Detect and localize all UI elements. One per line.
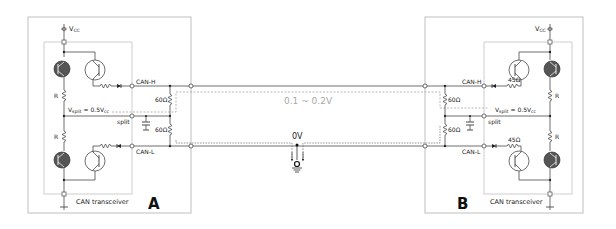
can-l-pin-b xyxy=(482,144,486,148)
transistor-icon xyxy=(54,152,70,168)
capacitor-icon xyxy=(142,116,150,130)
resistor-label-a-upper: R xyxy=(54,93,58,99)
vcc-icon xyxy=(547,24,553,44)
vcc-icon xyxy=(61,24,67,44)
ground-icon xyxy=(292,144,302,173)
termination-resistor-icon xyxy=(443,124,447,135)
split-label-a: split xyxy=(117,119,130,125)
can-l-pin-a xyxy=(130,144,134,148)
split-label-b: split xyxy=(488,119,501,125)
termination-resistor-icon xyxy=(168,94,172,105)
node-a xyxy=(28,17,193,213)
resistor-icon xyxy=(100,84,111,88)
diode-icon xyxy=(117,144,121,148)
capacitor-icon xyxy=(466,116,474,130)
series-resistor-label-b-high: 45Ω xyxy=(508,77,520,83)
can-l-label-a: CAN-L xyxy=(136,149,154,155)
transceiver-label-b: CAN transceiver xyxy=(490,199,543,206)
vsplit-label-b: Vsplit = 0.5Vcc xyxy=(495,107,536,115)
series-resistor-label-b-low: 45Ω xyxy=(508,137,520,143)
transistor-icon xyxy=(544,61,560,77)
resistor-icon xyxy=(62,131,66,142)
resistor-icon xyxy=(100,144,111,148)
diode-icon xyxy=(492,84,496,88)
vcc-label-a: VCC xyxy=(69,26,80,34)
can-h-label-b: CAN-H xyxy=(462,79,481,85)
transceiver-label-a: CAN transceiver xyxy=(76,199,129,206)
node-a-outer-box xyxy=(28,17,191,213)
split-pin-b xyxy=(482,114,486,118)
termination-label-a-lower: 60Ω xyxy=(155,127,167,133)
transistor-icon xyxy=(85,60,105,80)
can-bus-diagram: VCC R R Vsplit = 0.5Vcc CAN-H split CAN-… xyxy=(0,0,616,229)
split-pin-a xyxy=(130,114,134,118)
transistor-icon xyxy=(509,151,529,171)
resistor-icon xyxy=(507,144,518,148)
node-label-b: B xyxy=(457,197,468,212)
resistor-icon xyxy=(62,90,66,101)
can-h-label-a: CAN-H xyxy=(136,79,155,85)
resistor-label-a-lower: R xyxy=(54,134,58,140)
diode-icon xyxy=(117,84,121,88)
diode-icon xyxy=(492,144,496,148)
resistor-label-b-lower: R xyxy=(555,134,559,140)
differential-voltage-label: 0.1 ~ 0.2V xyxy=(284,97,332,106)
can-h-pin-a xyxy=(130,84,134,88)
termination-label-a-upper: 60Ω xyxy=(155,97,167,103)
circuit-schematic xyxy=(0,0,616,229)
transistor-icon xyxy=(85,151,105,171)
vsplit-label-a: Vsplit = 0.5Vcc xyxy=(68,107,109,115)
can-h-pin-b xyxy=(482,84,486,88)
resistor-icon xyxy=(548,131,552,142)
can-l-label-b: CAN-L xyxy=(462,149,480,155)
ground-voltage-label: 0V xyxy=(292,133,303,141)
termination-resistor-icon xyxy=(168,124,172,135)
transistor-icon xyxy=(54,61,70,77)
resistor-icon xyxy=(548,90,552,101)
node-b-outer-box xyxy=(425,17,583,213)
resistor-label-b-upper: R xyxy=(555,93,559,99)
termination-label-b-lower: 60Ω xyxy=(448,127,460,133)
resistor-icon xyxy=(507,84,518,88)
transistor-icon xyxy=(544,152,560,168)
termination-resistor-icon xyxy=(443,94,447,105)
node-b xyxy=(423,17,583,213)
node-label-a: A xyxy=(148,197,160,212)
vcc-label-b: VCC xyxy=(535,26,546,34)
termination-label-b-upper: 60Ω xyxy=(448,97,460,103)
